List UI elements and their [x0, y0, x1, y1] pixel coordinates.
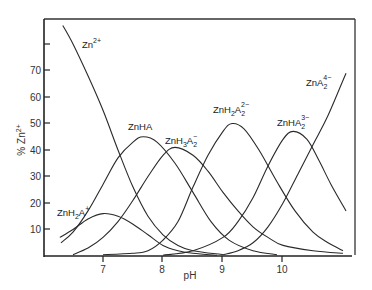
- y-tick-label: 10: [30, 224, 42, 235]
- x-tick-label: 7: [100, 264, 106, 275]
- curve-znha: [61, 137, 277, 255]
- label-znh2a-plus: ZnH2A+: [57, 205, 89, 220]
- plot-frame: [44, 19, 355, 257]
- y-ticks: 70 60 50 40 30 20 10: [30, 44, 50, 235]
- y-tick-label: 70: [30, 65, 42, 76]
- svg-text:%Zn2+: %Zn2+: [15, 124, 27, 156]
- curve-zn2-: [63, 26, 223, 255]
- y-tick-label: 40: [30, 145, 42, 156]
- y-tick-label: 30: [30, 171, 42, 182]
- curve-znh3a2-: [73, 147, 343, 254]
- speciation-chart: 70 60 50 40 30 20 10 7 8 9 10 pH %Zn2+ Z…: [0, 0, 372, 290]
- y-axis-title: %Zn2+: [15, 124, 27, 156]
- label-zna2-4minus: ZnA24−: [306, 74, 331, 90]
- curve-znh2a-: [60, 214, 217, 256]
- label-znh2a2-2minus: ZnH2A22−: [213, 101, 249, 117]
- label-zn2plus: Zn2+: [82, 37, 101, 50]
- x-axis-title: pH: [184, 270, 197, 281]
- x-tick-label: 10: [276, 264, 288, 275]
- x-tick-label: 9: [219, 264, 225, 275]
- species-curves: [60, 26, 346, 256]
- label-znha2-3minus: ZnHA23−: [277, 114, 309, 130]
- x-tick-label: 8: [159, 264, 165, 275]
- label-znh3a2-minus: ZnH3A2−: [165, 133, 197, 148]
- y-tick-label: 60: [30, 92, 42, 103]
- label-znha: ZnHA: [128, 121, 153, 132]
- y-tick-label: 20: [30, 198, 42, 209]
- y-tick-label: 50: [30, 118, 42, 129]
